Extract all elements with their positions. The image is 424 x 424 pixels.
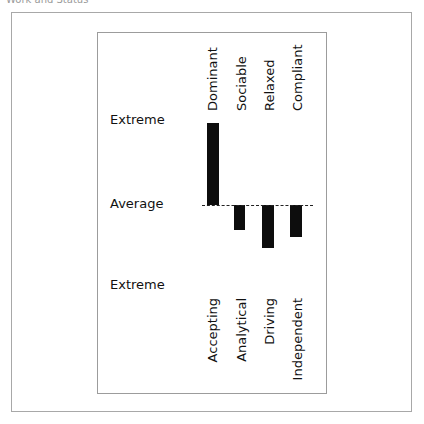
bar-sociable-analytical (234, 205, 245, 230)
page-caption: Work and Status (6, 0, 88, 5)
bottom-category-label: Driving (262, 298, 277, 345)
average-baseline (202, 205, 313, 206)
bar-compliant-independent (290, 205, 302, 237)
y-label-bottom-extreme: Extreme (110, 277, 165, 292)
bar-dominant (207, 123, 219, 205)
top-category-label: Relaxed (262, 59, 277, 111)
top-category-label: Dominant (205, 47, 220, 111)
bottom-category-label: Analytical (234, 298, 249, 362)
bar-relaxed-driving (262, 205, 274, 248)
top-category-label: Sociable (234, 56, 249, 111)
bottom-category-label: Independent (290, 298, 305, 380)
bottom-category-label: Accepting (205, 298, 220, 362)
top-category-label: Compliant (290, 45, 305, 111)
y-label-average: Average (110, 196, 163, 211)
y-label-top-extreme: Extreme (110, 112, 165, 127)
